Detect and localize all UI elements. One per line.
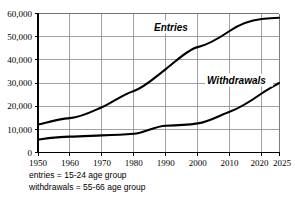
x-tick-label-2000: 2000 xyxy=(189,158,208,168)
withdrawals-label: Withdrawals xyxy=(207,75,266,86)
note-withdrawals: withdrawals = 55-66 age group xyxy=(28,182,146,192)
y-tick-label-30000: 30,000 xyxy=(7,78,32,88)
y-tick-label-60000: 60,000 xyxy=(7,9,32,19)
y-tick-label-0: 0 xyxy=(28,148,33,158)
annotation-withdrawals: Withdrawals xyxy=(205,74,273,87)
entries-line xyxy=(38,18,279,125)
y-tick-label-10000: 10,000 xyxy=(7,125,32,135)
y-tick-label-50000: 50,000 xyxy=(7,32,32,42)
x-tick-label-1960: 1960 xyxy=(61,158,80,168)
x-tick-label-1950: 1950 xyxy=(29,158,48,168)
series-withdrawals xyxy=(38,83,279,140)
x-tick-label-2025: 2025 xyxy=(273,158,292,168)
chart-notes: entries = 15-24 age group withdrawals = … xyxy=(28,170,146,192)
series-entries xyxy=(38,18,279,125)
y-tick-label-40000: 40,000 xyxy=(7,55,32,65)
note-entries: entries = 15-24 age group xyxy=(29,170,127,180)
entries-label: Entries xyxy=(154,22,188,33)
y-tick-label-20000: 20,000 xyxy=(7,101,32,111)
x-tick-label-2020: 2020 xyxy=(251,158,270,168)
x-tick-label-2010: 2010 xyxy=(221,158,240,168)
withdrawals-line xyxy=(38,83,279,140)
x-tick-label-1970: 1970 xyxy=(93,158,112,168)
y-axis-labels: 60,000 50,000 40,000 30,000 20,000 10,00… xyxy=(7,9,32,158)
x-axis-ticks xyxy=(38,152,279,156)
chart-canvas: 60,000 50,000 40,000 30,000 20,000 10,00… xyxy=(0,0,295,198)
x-axis-labels: 1950 1960 1970 1980 1990 2000 2010 2020 … xyxy=(29,158,292,168)
x-tick-label-1980: 1980 xyxy=(125,158,144,168)
line-chart: 60,000 50,000 40,000 30,000 20,000 10,00… xyxy=(0,0,295,198)
annotation-entries: Entries xyxy=(152,21,196,34)
x-tick-label-1990: 1990 xyxy=(157,158,176,168)
